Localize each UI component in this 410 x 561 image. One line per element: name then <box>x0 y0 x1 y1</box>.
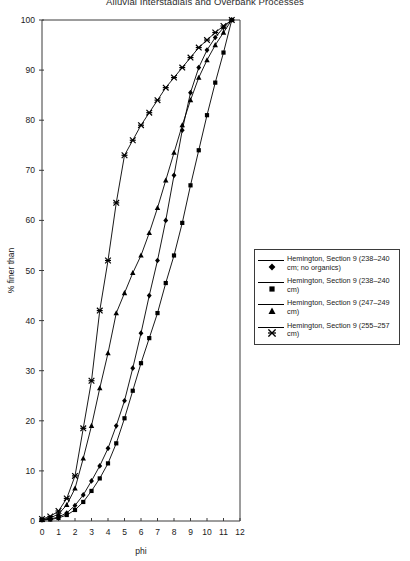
x-tick-label: 2 <box>73 527 78 537</box>
y-tick-label: 10 <box>26 466 36 476</box>
series-marker <box>130 365 135 371</box>
series-marker <box>72 485 77 490</box>
legend-label: Hemington, Section 9 (247–249 cm) <box>284 299 395 316</box>
series-marker <box>89 478 94 484</box>
legend-label: Hemington, Section 9 (255–257 cm) <box>284 322 395 339</box>
legend-marker <box>268 301 276 319</box>
x-tick-label: 6 <box>139 527 144 537</box>
legend-sample <box>258 322 284 333</box>
legend-item[interactable]: Hemington, Section 9 (238–240 cm; no org… <box>258 255 395 272</box>
legend-sample <box>258 299 284 310</box>
legend-label: Hemington, Section 9 (238–240 cm; no org… <box>284 255 395 272</box>
x-axis-label: phi <box>135 546 146 556</box>
series-marker <box>122 398 127 404</box>
data-series <box>39 17 234 522</box>
y-tick-label: 90 <box>26 65 36 75</box>
series-marker <box>139 361 143 365</box>
data-series <box>39 17 235 522</box>
legend-label: Hemington, Section 9 (238–240 cm) <box>284 277 395 294</box>
legend-marker <box>268 323 276 341</box>
y-tick-label: 80 <box>26 115 36 125</box>
series-marker <box>73 508 77 512</box>
series-marker <box>64 496 70 502</box>
series-marker <box>196 65 201 71</box>
series-line <box>42 20 232 519</box>
y-tick-label: 20 <box>26 416 36 426</box>
y-tick-label: 50 <box>26 266 36 276</box>
x-tick-label: 12 <box>235 527 245 537</box>
series-marker <box>155 205 160 210</box>
series-marker <box>146 110 152 116</box>
series-marker <box>205 113 209 117</box>
legend-marker <box>268 257 276 275</box>
series-marker <box>204 57 209 62</box>
x-tick-label: 5 <box>122 527 127 537</box>
series-marker <box>221 50 225 54</box>
y-tick-label: 40 <box>26 316 36 326</box>
series-marker <box>97 385 102 390</box>
series-marker <box>196 75 201 80</box>
x-tick-label: 10 <box>202 527 212 537</box>
series-marker <box>122 290 127 295</box>
series-marker <box>213 81 217 85</box>
legend-item[interactable]: Hemington, Section 9 (247–249 cm) <box>258 299 395 316</box>
series-marker <box>179 65 185 71</box>
diamond-marker-icon <box>268 263 276 271</box>
legend-item[interactable]: Hemington, Section 9 (255–257 cm) <box>258 322 395 339</box>
series-marker <box>139 330 144 336</box>
series-marker <box>81 500 85 504</box>
triangle-marker-icon <box>268 307 276 315</box>
series-marker <box>130 137 136 143</box>
series-marker <box>106 446 111 452</box>
legend-sample <box>258 277 284 288</box>
series-line <box>42 20 232 520</box>
series-marker <box>171 75 177 81</box>
series-marker <box>56 516 60 520</box>
legend: Hemington, Section 9 (238–240 cm; no org… <box>254 249 400 345</box>
series-marker <box>147 230 152 235</box>
series-marker <box>172 253 176 257</box>
legend-marker <box>268 279 276 297</box>
series-marker <box>114 441 118 445</box>
series-line <box>42 20 232 520</box>
x-tick-label: 9 <box>188 527 193 537</box>
series-marker <box>172 172 177 178</box>
legend-item[interactable]: Hemington, Section 9 (238–240 cm) <box>258 277 395 294</box>
series-marker <box>106 461 110 465</box>
series-marker <box>138 253 143 258</box>
series-marker <box>105 350 110 355</box>
legend-sample <box>258 255 284 266</box>
series-marker <box>65 513 69 517</box>
y-tick-label: 70 <box>26 165 36 175</box>
series-line <box>42 20 232 520</box>
series-marker <box>98 476 102 480</box>
series-marker <box>138 122 144 128</box>
series-marker <box>97 463 102 469</box>
series-marker <box>89 423 94 428</box>
x-tick-label: 4 <box>106 527 111 537</box>
series-marker <box>155 258 160 264</box>
series-marker <box>197 148 201 152</box>
series-marker <box>163 177 168 182</box>
x-tick-label: 1 <box>56 527 61 537</box>
series-marker <box>147 293 152 299</box>
series-marker <box>188 55 194 61</box>
series-marker <box>164 281 168 285</box>
axis-frame <box>42 20 240 521</box>
series-marker <box>114 310 119 315</box>
series-marker <box>204 37 210 43</box>
series-marker <box>155 97 161 103</box>
x-tick-label: 11 <box>219 527 228 537</box>
series-marker <box>171 150 176 155</box>
data-series <box>40 17 235 523</box>
series-marker <box>89 489 93 493</box>
figure: Alluvial Interstadials and Overbank Proc… <box>0 0 410 561</box>
data-series <box>40 18 234 522</box>
x-tick-label: 8 <box>172 527 177 537</box>
x-tick-label: 3 <box>89 527 94 537</box>
y-axis-label: % finer than <box>6 248 16 294</box>
series-marker <box>122 416 126 420</box>
series-marker <box>163 85 169 91</box>
series-marker <box>188 183 192 187</box>
y-tick-label: 60 <box>26 215 36 225</box>
